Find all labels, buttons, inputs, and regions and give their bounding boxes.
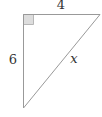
side-label-left: 6 bbox=[9, 52, 17, 67]
triangle-outline bbox=[24, 15, 101, 109]
side-label-hypotenuse: x bbox=[70, 51, 78, 66]
side-label-top: 4 bbox=[57, 0, 65, 12]
right-triangle-diagram: 4 6 x bbox=[0, 0, 102, 117]
right-angle-marker bbox=[24, 15, 34, 25]
